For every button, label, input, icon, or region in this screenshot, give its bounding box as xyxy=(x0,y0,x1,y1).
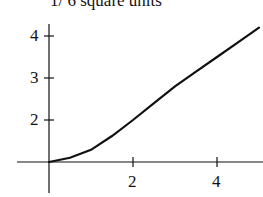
plot-area xyxy=(0,0,263,197)
data-curve xyxy=(49,28,259,162)
y-tick-label: 3 xyxy=(30,69,39,86)
y-tick-label: 4 xyxy=(30,27,39,44)
x-tick-label: 4 xyxy=(212,173,221,190)
x-tick-label: 2 xyxy=(128,173,137,190)
y-tick-label: 2 xyxy=(30,111,39,128)
